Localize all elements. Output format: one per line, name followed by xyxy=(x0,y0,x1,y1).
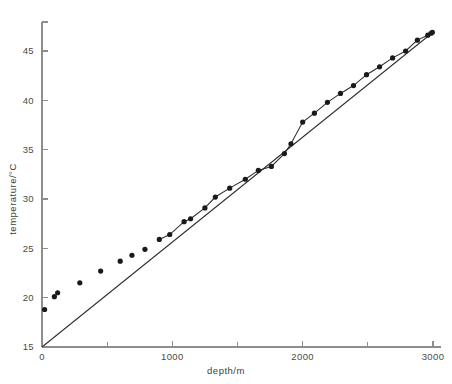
data-point-marker xyxy=(77,280,82,285)
data-point-marker xyxy=(202,205,207,210)
data-point-marker xyxy=(129,253,134,258)
y-axis-tick-label: 15 xyxy=(23,341,34,352)
data-point-marker xyxy=(282,151,287,156)
data-point-marker xyxy=(243,177,248,182)
x-axis-tick-label: 1000 xyxy=(161,351,184,362)
data-point-marker xyxy=(181,219,186,224)
data-point-marker xyxy=(167,232,172,237)
data-point-marker xyxy=(157,237,162,242)
x-axis-tick-label: 3000 xyxy=(422,351,445,362)
y-axis-tick-label: 40 xyxy=(23,95,34,106)
data-point-marker xyxy=(351,83,356,88)
y-axis-title: temperature/°C xyxy=(7,163,18,235)
x-axis-tick-label: 2000 xyxy=(291,351,314,362)
data-point-marker xyxy=(338,91,343,96)
data-point-marker xyxy=(188,216,193,221)
x-axis-tick-label: 0 xyxy=(39,351,45,362)
data-point-marker xyxy=(98,268,103,273)
data-point-marker xyxy=(403,48,408,53)
temperature-depth-scatter-plot: 15202530354045 0100020003000 depth/m tem… xyxy=(0,0,452,384)
x-axis-title: depth/m xyxy=(207,365,245,376)
data-point-marker xyxy=(415,38,420,43)
data-point-marker xyxy=(213,194,218,199)
y-axis-tick-label: 35 xyxy=(23,144,34,155)
y-axis-tick-label: 20 xyxy=(23,292,34,303)
y-axis-tick-label: 25 xyxy=(23,243,34,254)
y-axis-tick-label: 45 xyxy=(23,45,34,56)
y-axis-tick-label: 30 xyxy=(23,193,34,204)
data-point-marker xyxy=(269,164,274,169)
data-point-marker xyxy=(430,30,435,35)
data-point-marker xyxy=(390,55,395,60)
data-point-marker xyxy=(227,186,232,191)
data-point-marker xyxy=(312,111,317,116)
data-point-marker xyxy=(300,119,305,124)
data-point-marker xyxy=(142,247,147,252)
data-point-marker xyxy=(55,290,60,295)
data-point-marker xyxy=(118,259,123,264)
data-point-marker xyxy=(377,64,382,69)
data-point-marker xyxy=(42,307,47,312)
data-point-marker xyxy=(364,72,369,77)
data-point-marker xyxy=(256,168,261,173)
data-point-marker xyxy=(288,141,293,146)
chart-figure: 15202530354045 0100020003000 depth/m tem… xyxy=(0,0,452,384)
data-point-marker xyxy=(325,100,330,105)
